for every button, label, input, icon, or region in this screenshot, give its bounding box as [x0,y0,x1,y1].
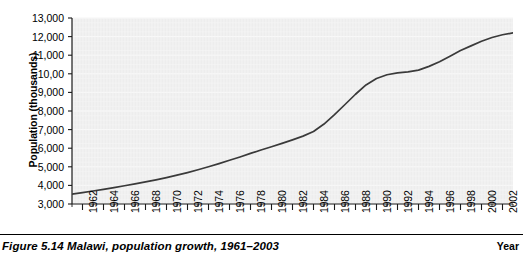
x-axis-tick-label: 1976 [234,190,246,213]
x-axis-tick-label: 1984 [318,190,330,213]
x-axis-tick-label: 1994 [423,190,435,213]
x-axis-tick-label: 1974 [213,190,225,213]
x-axis-tick-label: 1970 [171,190,183,213]
x-axis-tick-label: 1992 [402,190,414,213]
x-axis-tick-label: 1964 [108,190,120,213]
x-axis-tick-label: 1968 [150,190,162,213]
caption-divider [0,234,523,235]
x-axis-tick-label: 1982 [297,190,309,213]
x-axis-tick-label: 1998 [465,190,477,213]
x-axis-tick-label: 1972 [192,190,204,213]
x-axis-tick-label: 1988 [360,190,372,213]
x-axis-tick-label: 1962 [87,190,99,213]
x-axis-tick-labels: 1962196419661968197019721974197619781980… [0,0,523,261]
x-axis-tick-label: 1966 [129,190,141,213]
x-axis-tick-label: 1980 [276,190,288,213]
x-axis-tick-label: 1990 [381,190,393,213]
x-axis-tick-label: 1996 [444,190,456,213]
figure-population-growth: Population (thousands) 13,00012,00011,00… [0,0,523,261]
x-axis-tick-label: 2002 [507,190,519,213]
x-axis-tick-label: 1978 [255,190,267,213]
figure-caption: Figure 5.14 Malawi, population growth, 1… [2,240,279,252]
x-axis-title: Year [497,240,519,252]
x-axis-tick-label: 2000 [486,190,498,213]
x-axis-tick-label: 1986 [339,190,351,213]
